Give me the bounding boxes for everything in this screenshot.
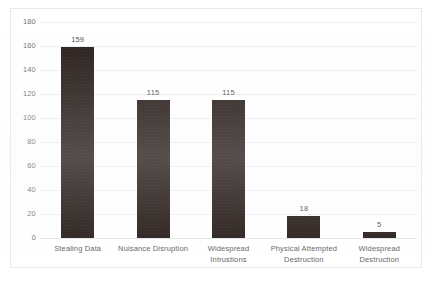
x-tick-label: WidespreadDestruction bbox=[343, 243, 416, 265]
y-tick-label: 0 bbox=[4, 234, 36, 242]
x-tick-label-line: Intrustions bbox=[192, 254, 265, 265]
y-tick-label: 100 bbox=[4, 114, 36, 122]
x-tick-label: Nuisance Disruption bbox=[116, 243, 189, 254]
bar bbox=[61, 47, 94, 238]
bar-chart: 020406080100120140160180 159115115185 St… bbox=[0, 0, 433, 285]
x-tick-label-line: Physical Attempted bbox=[267, 243, 340, 254]
bar-value-label: 5 bbox=[359, 221, 399, 229]
bar-value-label: 115 bbox=[209, 89, 249, 97]
y-tick-label: 40 bbox=[4, 186, 36, 194]
x-tick-label-line: Destruction bbox=[343, 254, 416, 265]
y-tick-label: 140 bbox=[4, 66, 36, 74]
bar bbox=[137, 100, 170, 238]
y-tick-label: 180 bbox=[4, 18, 36, 26]
y-tick-label: 120 bbox=[4, 90, 36, 98]
y-tick-label: 160 bbox=[4, 42, 36, 50]
y-tick-label: 80 bbox=[4, 138, 36, 146]
x-tick-label-line: Nuisance Disruption bbox=[116, 243, 189, 254]
y-tick-label: 20 bbox=[4, 210, 36, 218]
bar bbox=[363, 232, 396, 238]
x-axis: Stealing DataNuisance DisruptionWidespre… bbox=[40, 243, 417, 269]
x-tick-label: WidespreadIntrustions bbox=[192, 243, 265, 265]
bar-value-label: 159 bbox=[58, 36, 98, 44]
y-tick-label: 60 bbox=[4, 162, 36, 170]
bar-value-label: 18 bbox=[284, 205, 324, 213]
bar-value-label: 115 bbox=[133, 89, 173, 97]
x-tick-label-line: Widespread bbox=[343, 243, 416, 254]
y-axis: 020406080100120140160180 bbox=[0, 22, 36, 238]
bars-layer: 159115115185 bbox=[40, 22, 417, 238]
axis-baseline bbox=[40, 238, 417, 239]
x-tick-label-line: Stealing Data bbox=[41, 243, 114, 254]
bar bbox=[287, 216, 320, 238]
bar bbox=[212, 100, 245, 238]
x-tick-label-line: Widespread bbox=[192, 243, 265, 254]
x-tick-label-line: Destruction bbox=[267, 254, 340, 265]
x-tick-label: Physical AttemptedDestruction bbox=[267, 243, 340, 265]
x-tick-label: Stealing Data bbox=[41, 243, 114, 254]
